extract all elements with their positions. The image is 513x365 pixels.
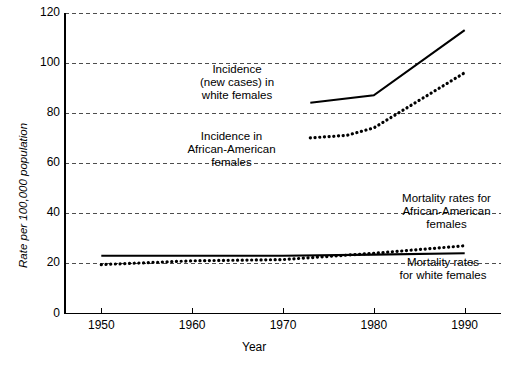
annotation-incidence-aa: Incidence in African-American females [167, 130, 296, 170]
x-axis-title: Year [242, 340, 266, 354]
y-tick-label-120: 120 [28, 5, 60, 19]
x-tick-label-1950: 1950 [76, 318, 126, 332]
annotation-incidence-white: Incidence (new cases) in white females [178, 63, 296, 103]
y-tick-label-40: 40 [28, 205, 60, 219]
y-axis-title: Rate per 100,000 population [17, 123, 29, 268]
x-tick-label-1990: 1990 [440, 318, 490, 332]
annotation-mortality-aa: Mortality rates for African-American fem… [384, 192, 509, 232]
y-tick-label-20: 20 [28, 255, 60, 269]
chart-figure: 020406080100120 19501960197019801990 Rat… [0, 0, 513, 365]
series-line-1 [310, 73, 464, 138]
x-axis-ticks [102, 308, 466, 314]
y-tick-label-100: 100 [28, 55, 60, 69]
y-tick-label-80: 80 [28, 105, 60, 119]
annotation-leader-lines [299, 104, 382, 263]
x-tick-label-1970: 1970 [258, 318, 308, 332]
series-line-0 [310, 30, 464, 103]
x-tick-label-1980: 1980 [349, 318, 399, 332]
x-tick-label-1960: 1960 [167, 318, 217, 332]
y-tick-label-0: 0 [28, 306, 60, 320]
annotation-mortality-white: Mortality rates for white females [382, 256, 504, 282]
chart-plot-area [0, 0, 513, 365]
y-tick-label-60: 60 [28, 155, 60, 169]
